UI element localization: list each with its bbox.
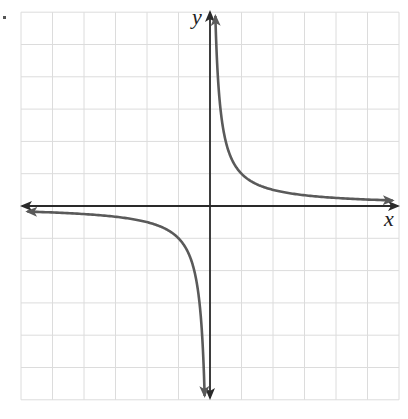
x-axis-label: x <box>384 208 394 230</box>
y-axis-label: y <box>192 6 202 28</box>
axes <box>22 12 398 398</box>
hyperbola-chart <box>0 0 408 419</box>
